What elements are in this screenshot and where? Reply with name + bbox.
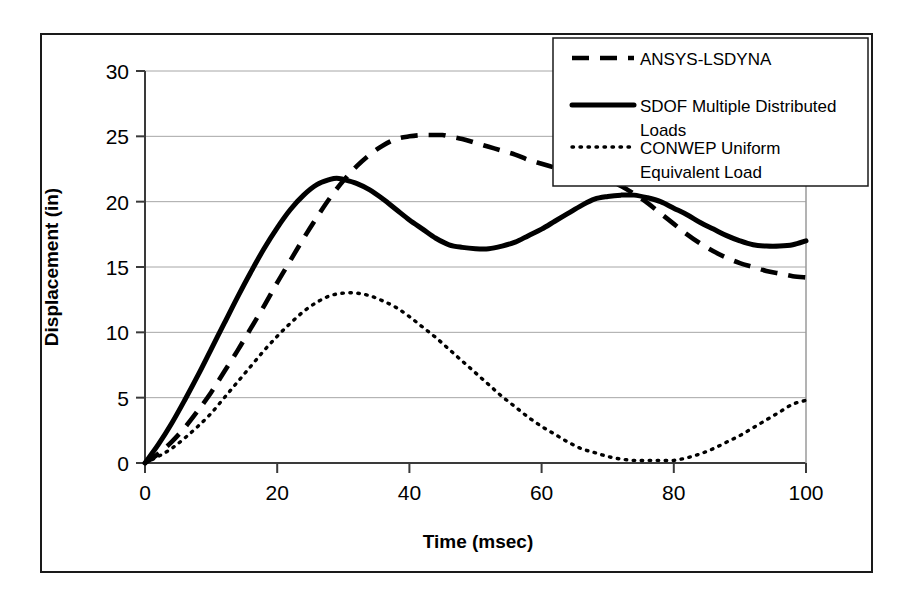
y-axis-title: Displacement (in) bbox=[41, 188, 62, 346]
x-tick-label: 20 bbox=[266, 481, 289, 504]
y-axis-tick-labels: 051015202530 bbox=[106, 60, 129, 475]
x-tick-label: 100 bbox=[788, 481, 823, 504]
y-tick-label: 5 bbox=[117, 387, 129, 410]
x-tick-label: 60 bbox=[530, 481, 553, 504]
y-tick-label: 10 bbox=[106, 321, 129, 344]
legend: ANSYS-LSDYNASDOF Multiple DistributedLoa… bbox=[553, 38, 868, 186]
legend-label-solid-cont: Loads bbox=[640, 121, 686, 140]
y-axis-ticks bbox=[136, 71, 145, 463]
y-tick-label: 0 bbox=[117, 452, 129, 475]
chart-canvas: 051015202530 020406080100 Displacement (… bbox=[0, 0, 915, 601]
legend-label-dotted: CONWEP Uniform bbox=[640, 139, 780, 158]
x-tick-label: 0 bbox=[139, 481, 151, 504]
x-axis-title: Time (msec) bbox=[423, 531, 534, 552]
x-axis-tick-labels: 020406080100 bbox=[139, 481, 823, 504]
x-tick-label: 40 bbox=[398, 481, 421, 504]
y-tick-label: 15 bbox=[106, 256, 129, 279]
legend-label-solid: SDOF Multiple Distributed bbox=[640, 97, 837, 116]
y-tick-label: 20 bbox=[106, 191, 129, 214]
x-tick-label: 80 bbox=[662, 481, 685, 504]
y-tick-label: 25 bbox=[106, 125, 129, 148]
figure: 051015202530 020406080100 Displacement (… bbox=[0, 0, 915, 601]
legend-label-dashed: ANSYS-LSDYNA bbox=[640, 50, 772, 69]
y-tick-label: 30 bbox=[106, 60, 129, 83]
x-axis-ticks bbox=[145, 463, 806, 473]
legend-label-dotted-cont: Equivalent Load bbox=[640, 163, 762, 182]
